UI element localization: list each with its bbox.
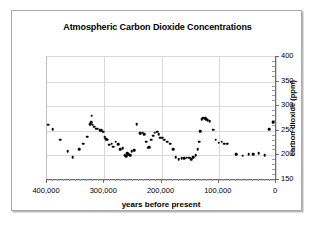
y-axis-tick <box>275 81 279 82</box>
x-axis-minor-tick <box>138 179 139 181</box>
y-axis-tick-label: 150 <box>281 175 294 183</box>
y-axis-minor-tick <box>272 95 275 96</box>
x-axis-minor-tick <box>178 179 179 181</box>
data-point <box>195 154 198 157</box>
y-axis-minor-tick <box>272 164 275 165</box>
x-axis-minor-tick <box>69 179 70 181</box>
data-point <box>208 120 211 123</box>
x-axis-minor-tick <box>264 179 265 181</box>
data-point <box>152 134 155 137</box>
x-axis-minor-tick <box>63 179 64 181</box>
data-point <box>136 123 139 126</box>
x-axis-tick <box>275 179 276 183</box>
x-axis-minor-tick <box>109 179 110 181</box>
x-axis-minor-tick <box>252 179 253 181</box>
x-axis-tick <box>103 179 104 183</box>
data-point <box>117 143 120 146</box>
data-point <box>133 149 136 152</box>
data-point <box>82 142 85 145</box>
y-axis-minor-tick <box>272 115 275 116</box>
data-point <box>106 138 109 141</box>
x-axis-minor-tick <box>258 179 259 181</box>
y-axis-minor-tick <box>272 135 275 136</box>
y-axis-minor-tick <box>272 159 275 160</box>
data-point <box>196 148 199 151</box>
data-point <box>90 114 93 117</box>
y-axis-tick-label: 400 <box>281 52 294 60</box>
x-axis-minor-tick <box>201 179 202 181</box>
x-axis-minor-tick <box>235 179 236 181</box>
data-point <box>121 147 124 150</box>
data-point <box>112 145 115 148</box>
gridline-vertical <box>276 57 277 179</box>
data-point <box>198 140 201 143</box>
x-axis-tick <box>218 179 219 183</box>
x-axis-minor-tick <box>143 179 144 181</box>
data-point <box>241 155 244 158</box>
x-axis-tick-label: 300,000 <box>90 186 117 195</box>
data-point <box>47 124 50 127</box>
x-axis-minor-tick <box>206 179 207 181</box>
x-axis-minor-tick <box>183 179 184 181</box>
y-axis-tick <box>275 154 279 155</box>
data-point <box>258 152 261 155</box>
x-axis-tick-label: 100,000 <box>204 186 231 195</box>
x-axis-minor-tick <box>189 179 190 181</box>
y-axis-tick <box>275 130 279 131</box>
gridline-vertical <box>219 57 220 179</box>
data-point <box>172 148 175 151</box>
x-axis-tick-label: 200,000 <box>147 186 174 195</box>
data-point <box>157 133 160 136</box>
data-point <box>247 153 250 156</box>
data-point <box>51 128 54 131</box>
gridline-vertical <box>104 57 105 179</box>
data-point <box>129 154 132 157</box>
y-axis-minor-tick <box>272 90 275 91</box>
x-axis-minor-tick <box>269 179 270 181</box>
x-axis-minor-tick <box>195 179 196 181</box>
x-axis-minor-tick <box>212 179 213 181</box>
x-axis-minor-tick <box>246 179 247 181</box>
data-point <box>145 140 148 143</box>
data-point <box>268 128 271 131</box>
x-axis-tick-label: 0 <box>273 186 277 195</box>
chart-title: Atmospheric Carbon Dioxide Concentration… <box>12 22 303 32</box>
x-axis-minor-tick <box>132 179 133 181</box>
y-axis-minor-tick <box>272 100 275 101</box>
y-axis-minor-tick <box>272 140 275 141</box>
x-axis-minor-tick <box>229 179 230 181</box>
data-point <box>226 142 229 145</box>
data-point <box>263 154 266 157</box>
y-axis-minor-tick <box>272 66 275 67</box>
data-point <box>169 142 172 145</box>
x-axis-minor-tick <box>126 179 127 181</box>
data-point <box>143 133 146 136</box>
x-axis-minor-tick <box>149 179 150 181</box>
data-point <box>212 129 215 132</box>
y-axis-minor-tick <box>272 120 275 121</box>
x-axis-minor-tick <box>120 179 121 181</box>
data-point <box>102 130 105 133</box>
data-point <box>71 156 74 159</box>
y-axis-title: carbon dioxide (ppm) <box>288 67 297 169</box>
y-axis-minor-tick <box>272 174 275 175</box>
x-axis-minor-tick <box>155 179 156 181</box>
x-axis-minor-tick <box>52 179 53 181</box>
y-axis-minor-tick <box>272 76 275 77</box>
x-axis-minor-tick <box>92 179 93 181</box>
data-point <box>150 138 153 141</box>
x-axis-minor-tick <box>80 179 81 181</box>
y-axis-tick <box>275 105 279 106</box>
x-axis-tick <box>161 179 162 183</box>
x-axis-minor-tick <box>75 179 76 181</box>
x-axis-title: years before present <box>46 200 276 209</box>
y-axis-minor-tick <box>272 149 275 150</box>
data-point <box>59 138 62 141</box>
y-axis-minor-tick <box>272 61 275 62</box>
data-point <box>66 150 69 153</box>
data-point <box>199 130 202 133</box>
plot-area <box>46 56 275 179</box>
y-axis-minor-tick <box>272 71 275 72</box>
data-point <box>78 148 81 151</box>
data-point <box>235 153 238 156</box>
